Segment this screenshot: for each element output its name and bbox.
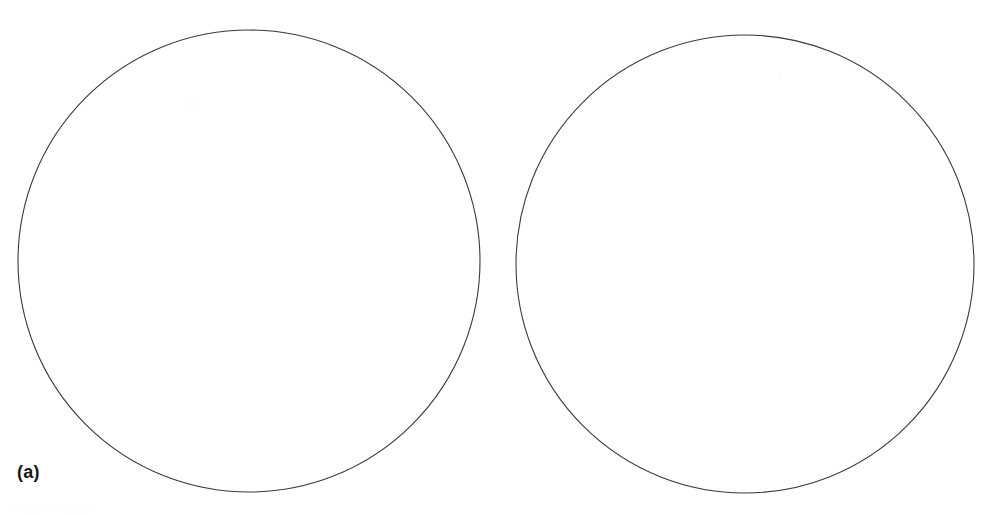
faint-mark-a [190, 102, 194, 106]
figure-root: (a) (b) Figure 4. (a) (b) [0, 0, 997, 516]
figure-caption: Figure 4. (a) (b) [14, 503, 654, 515]
panel-label-a: (a) [17, 462, 40, 482]
outline-circle-b [516, 35, 974, 493]
panel-a-canvas [0, 0, 500, 516]
outline-circle-a [18, 30, 480, 492]
panel-a: (a) [0, 0, 500, 516]
faint-mark-b [778, 75, 782, 79]
panel-b: (b) [497, 0, 997, 516]
panel-b-canvas [497, 0, 997, 516]
